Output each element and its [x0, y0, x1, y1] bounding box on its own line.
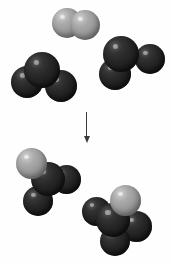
arrow-shaft [86, 112, 87, 138]
arrow-head [84, 136, 90, 143]
reaction-diagram: Chemical reaction space-filling molecula… [0, 0, 172, 263]
atom-dark [135, 44, 165, 74]
atom-dark [24, 52, 60, 88]
atom-light [70, 10, 100, 40]
atom-dark [103, 36, 139, 72]
reaction-arrow-down-icon [82, 112, 92, 144]
atom-light [110, 185, 141, 216]
atom-light [16, 148, 47, 179]
